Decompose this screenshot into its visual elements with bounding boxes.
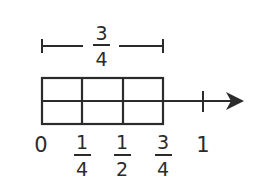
bracket-numerator: 3 — [95, 22, 107, 44]
label-one-fourth-numerator: 1 — [76, 131, 88, 153]
label-three-fourths-denominator: 4 — [157, 158, 169, 180]
label-three-fourths-numerator: 3 — [157, 131, 169, 153]
label-zero: 0 — [34, 133, 47, 157]
label-one: 1 — [196, 133, 209, 157]
label-one-half-numerator: 1 — [116, 131, 128, 153]
number-line — [42, 91, 232, 112]
label-one-fourth-denominator: 4 — [76, 158, 88, 180]
label-one-half-denominator: 2 — [116, 158, 128, 180]
fraction-diagram: 3 4 0 1 4 1 2 3 4 1 — [0, 0, 279, 193]
bracket-denominator: 4 — [95, 48, 107, 70]
